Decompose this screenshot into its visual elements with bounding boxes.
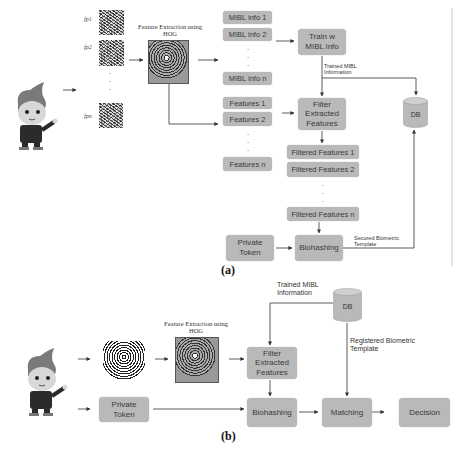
private-token-box: Private Token <box>226 235 274 261</box>
decision-box: Decision <box>399 398 450 427</box>
trained-mibl-info-label: Trained MIBL Information <box>324 63 364 76</box>
hog-fingerprint-image <box>148 40 189 84</box>
private-token-box: Private Token <box>99 397 149 422</box>
panel-b-caption: (b) <box>221 429 236 444</box>
fp1-label: fp1 <box>84 16 92 22</box>
mibl-info-n: MIBL info n <box>223 72 272 85</box>
matching-box: Matching <box>322 398 372 427</box>
hog-fingerprint-image <box>175 337 219 383</box>
filtered-features-2: Filtered Features 2 <box>287 162 359 177</box>
secured-template-label: Secured Biometric Template <box>354 235 406 248</box>
trained-mibl-info-label: Trained MIBL Information <box>277 281 329 297</box>
features-n: Features n <box>223 157 272 171</box>
panel-a-caption: (a) <box>221 263 235 278</box>
features-2: Features 2 <box>223 112 272 126</box>
registered-template-label: Registered Biometric Template <box>350 337 430 353</box>
fingerprint-sample-n <box>99 103 123 128</box>
ellipsis-dots: ··· <box>107 70 113 94</box>
ellipsis-dots: ··· <box>320 182 326 206</box>
filtered-features-1: Filtered Features 1 <box>287 145 359 159</box>
user-avatar-icon <box>4 82 60 150</box>
hog-title: Feature Extraction using HOG <box>135 23 205 38</box>
fp2-label: fp2 <box>84 44 92 50</box>
db-label: DB <box>403 111 428 119</box>
filter-extracted-features-box: Filter Extracted Features <box>247 347 297 379</box>
fingerprint-sample-1 <box>99 10 124 35</box>
hog-title: Feature Extraction using HOG <box>160 320 232 335</box>
db-label: DB <box>333 303 362 311</box>
fingerprint-image <box>103 341 145 381</box>
fpn-label: fpn <box>84 113 92 119</box>
mibl-info-2: MIBL info 2 <box>223 28 272 41</box>
user-avatar-icon <box>14 348 70 416</box>
fingerprint-sample-2 <box>99 40 124 66</box>
mibl-info-1: MIBL info 1 <box>223 11 272 24</box>
biohashing-box: Biohashing <box>295 235 343 261</box>
train-mibl-box: Train w MIBL info <box>298 29 346 55</box>
filter-extracted-features-box: Filter Extracted Features <box>298 98 346 130</box>
biohashing-box: Biohashing <box>247 398 297 427</box>
ellipsis-dots: ··· <box>245 46 251 70</box>
ellipsis-dots: ··· <box>245 131 251 155</box>
features-1: Features 1 <box>223 97 272 109</box>
filtered-features-n: Filtered Features n <box>287 207 359 221</box>
